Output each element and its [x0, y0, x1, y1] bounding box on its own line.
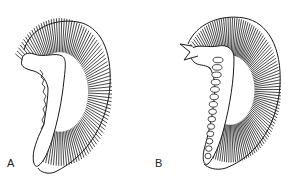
crescent-a-illustration — [0, 0, 148, 183]
panel-a: A — [0, 0, 148, 183]
panel-b: B — [148, 0, 296, 183]
crescent-b-illustration — [148, 0, 296, 183]
panel-label-b: B — [155, 157, 162, 169]
panel-label-a: A — [7, 157, 14, 169]
